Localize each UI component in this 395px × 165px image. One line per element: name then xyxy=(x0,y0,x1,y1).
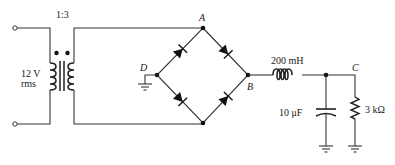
node-A-label: A xyxy=(198,12,206,23)
polarity-dot-primary xyxy=(54,51,58,55)
transformer-ratio-label: 1:3 xyxy=(56,9,69,20)
capacitor-label: 10 μF xyxy=(279,107,303,118)
circuit-diagram: 1:3 12 V rms xyxy=(0,0,395,165)
primary-voltage-unit-label: rms xyxy=(21,78,36,89)
transformer: 1:3 12 V rms xyxy=(21,9,74,91)
inductor: 200 mH xyxy=(248,55,355,97)
ground-icon-capacitor xyxy=(319,146,333,152)
node-B-label: B xyxy=(247,81,253,92)
resistor: 3 kΩ xyxy=(351,97,385,146)
node-D-label: D xyxy=(139,62,148,73)
inductor-label: 200 mH xyxy=(271,55,304,66)
ground-icon-D xyxy=(138,75,157,90)
bridge-rectifier: A B D xyxy=(139,12,253,125)
resistor-label: 3 kΩ xyxy=(365,104,385,115)
primary-coil xyxy=(50,63,56,90)
polarity-dot-secondary xyxy=(65,51,69,55)
ground-icon-resistor xyxy=(348,146,362,152)
wire-secondary-bottom xyxy=(74,90,203,124)
input-terminal-top xyxy=(13,26,50,63)
node-bottom-dot xyxy=(201,121,206,126)
capacitor: 10 μF xyxy=(279,75,336,146)
wire-secondary-top xyxy=(74,28,203,63)
node-C-label: C xyxy=(352,62,359,73)
input-terminal-bottom xyxy=(13,90,50,126)
node-A-dot xyxy=(201,26,206,31)
secondary-coil xyxy=(68,63,74,90)
